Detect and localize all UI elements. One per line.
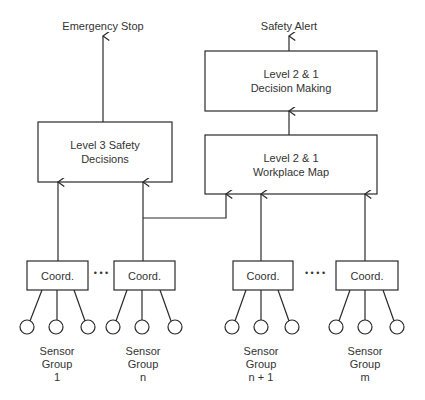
sensor-group-n-links bbox=[106, 290, 182, 334]
ellipsis-left: • • • bbox=[88, 267, 114, 280]
sensor-group-m-line1: Sensor bbox=[335, 345, 395, 358]
coord-label-3: Coord. bbox=[233, 261, 293, 290]
safety-alert-label: Safety Alert bbox=[239, 20, 339, 33]
sensor-group-n1-line1: Sensor bbox=[231, 345, 291, 358]
sensor-group-1-line2: Group bbox=[27, 358, 87, 371]
ellipsis-right: • • • • bbox=[295, 267, 335, 280]
level3-line1: Level 3 Safety bbox=[70, 138, 140, 152]
sensor-group-1-line3: 1 bbox=[27, 371, 87, 384]
sensor-group-n1-links bbox=[225, 290, 299, 334]
sensor-group-1-line1: Sensor bbox=[27, 345, 87, 358]
sensor-group-n1-line2: Group bbox=[231, 358, 291, 371]
workplace-map-box-label: Level 2 & 1 Workplace Map bbox=[205, 135, 377, 194]
sensor-group-n-label: Sensor Group n bbox=[113, 345, 173, 384]
emergency-stop-label: Emergency Stop bbox=[43, 20, 163, 33]
level3-box-label: Level 3 Safety Decisions bbox=[38, 122, 172, 182]
sensor-group-m-links bbox=[329, 290, 404, 334]
workplace-map-line1: Level 2 & 1 bbox=[263, 151, 318, 165]
coord2-to-map-connector bbox=[143, 194, 226, 218]
coord-label-4: Coord. bbox=[336, 261, 398, 290]
decision-making-line1: Level 2 & 1 bbox=[263, 67, 318, 81]
sensor-group-n-line1: Sensor bbox=[113, 345, 173, 358]
decision-making-box-label: Level 2 & 1 Decision Making bbox=[205, 51, 377, 111]
sensor-group-1-label: Sensor Group 1 bbox=[27, 345, 87, 384]
decision-making-line2: Decision Making bbox=[251, 81, 332, 95]
sensor-group-n1-label: Sensor Group n + 1 bbox=[231, 345, 291, 384]
sensor-group-n-line2: Group bbox=[113, 358, 173, 371]
sensor-group-m-line3: m bbox=[335, 371, 395, 384]
sensor-group-m-line2: Group bbox=[335, 358, 395, 371]
workplace-map-line2: Workplace Map bbox=[253, 165, 329, 179]
level3-line2: Decisions bbox=[81, 152, 129, 166]
sensor-group-1-links bbox=[20, 290, 95, 334]
sensor-group-n1-line3: n + 1 bbox=[231, 371, 291, 384]
coord-label-1: Coord. bbox=[27, 261, 88, 290]
coord-label-2: Coord. bbox=[114, 261, 175, 290]
sensor-group-m-label: Sensor Group m bbox=[335, 345, 395, 384]
sensor-group-n-line3: n bbox=[113, 371, 173, 384]
